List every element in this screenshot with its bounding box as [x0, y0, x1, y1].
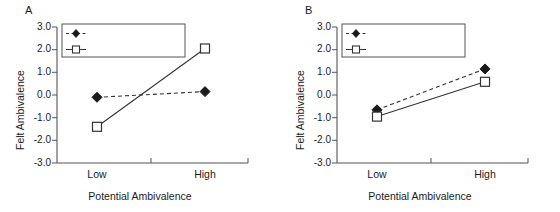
figure-two-panel-line-charts: A Felt Ambivalence 3.0 2.0 1.0 0.0 -1.0 … [0, 0, 560, 212]
panel-b-marker-repeated-low [373, 112, 382, 121]
panel-b-series-control-line [377, 69, 485, 110]
panel-a-series-control-line [97, 92, 205, 98]
panel-a-legend-marker-square [73, 46, 80, 53]
panel-a-series-repeated-line [97, 49, 205, 127]
panel-b-marker-repeated-high [481, 77, 490, 86]
panel-a-marker-control-low [92, 92, 102, 102]
panel-a-marker-control-high [200, 87, 210, 97]
panel-b-plot-area [280, 0, 560, 212]
panel-a-plot-area [0, 0, 280, 212]
panel-a-marker-repeated-low [93, 122, 102, 131]
panel-a: A Felt Ambivalence 3.0 2.0 1.0 0.0 -1.0 … [0, 0, 280, 212]
panel-a-legend-box [62, 24, 185, 57]
panel-b-legend-marker-square [353, 46, 360, 53]
panel-b-legend-box [342, 24, 465, 57]
panel-b-marker-control-high [480, 64, 490, 74]
panel-b: B Felt Ambivalence 3.0 2.0 1.0 0.0 -1.0 … [280, 0, 560, 212]
panel-a-marker-repeated-high [201, 44, 210, 53]
panel-b-series-repeated-line [377, 82, 485, 117]
